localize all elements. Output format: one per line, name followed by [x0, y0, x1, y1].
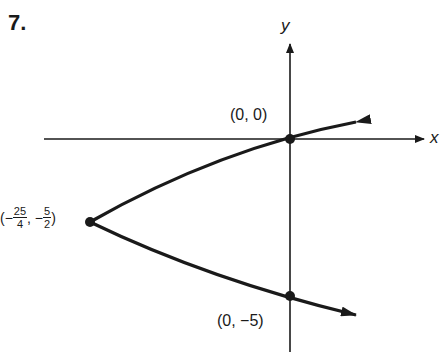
- fraction-25-4: 254: [13, 205, 27, 230]
- point-origin: [285, 134, 295, 144]
- y-axis-label: y: [281, 16, 290, 36]
- graph: [0, 0, 441, 362]
- point-y-intercept: [285, 291, 295, 301]
- point-vertex: [85, 217, 95, 227]
- y-intercept-label: (0, −5): [217, 312, 264, 330]
- x-axis-label: x: [430, 128, 439, 148]
- parabola-curve: [90, 122, 356, 222]
- vertex-label: (− 254 , − 52 ): [0, 205, 56, 230]
- fraction-5-2: 52: [43, 205, 51, 230]
- origin-label: (0, 0): [230, 106, 267, 124]
